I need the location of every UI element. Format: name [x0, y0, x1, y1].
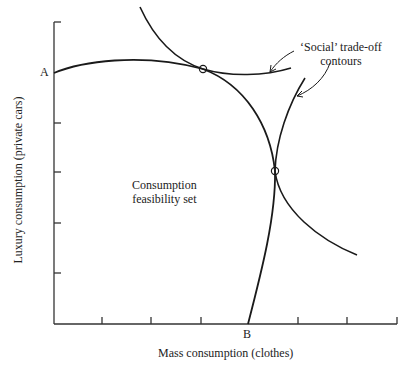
y-axis-label: Luxury consumption (private cars)	[11, 97, 25, 264]
point-b-label: B	[243, 327, 251, 341]
social-contour-lower	[275, 78, 357, 255]
feasibility-set-label: Consumption feasibility set	[132, 178, 197, 206]
point-a-label: A	[40, 65, 49, 79]
feasibility-set-label-line1: Consumption	[132, 178, 197, 192]
annotation-line2: contours	[300, 54, 382, 68]
annotation-line1: ‘Social’ trade-off	[300, 40, 382, 54]
feasibility-set-label-line2: feasibility set	[132, 192, 197, 206]
social-contour-upper	[140, 7, 291, 75]
social-contours-annotation: ‘Social’ trade-off contours	[300, 40, 382, 68]
x-axis-label: Mass consumption (clothes)	[158, 346, 293, 360]
